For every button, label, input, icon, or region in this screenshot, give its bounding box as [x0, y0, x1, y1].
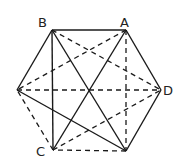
- label-B: B: [38, 15, 47, 30]
- edge-AF: [17, 30, 126, 90]
- edge-EC: [53, 150, 126, 151]
- label-A: A: [120, 15, 129, 30]
- edge-BD: [52, 30, 161, 90]
- edge-BC: [52, 30, 53, 150]
- edge-CF: [17, 90, 53, 150]
- edge-FE: [17, 90, 126, 151]
- edge-FB: [17, 30, 52, 90]
- label-D: D: [163, 83, 173, 98]
- edge-AD: [126, 30, 161, 90]
- label-C: C: [36, 144, 45, 159]
- hexagon-diagram: B A D C: [0, 0, 190, 159]
